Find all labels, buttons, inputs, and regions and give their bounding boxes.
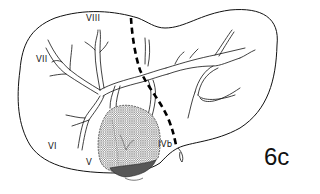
segment-label-viii: VIII — [86, 13, 100, 23]
segment-label-vii: VII — [36, 54, 47, 64]
gallbladder-mass — [98, 105, 160, 180]
segment-label-v: V — [86, 157, 92, 167]
segment-label-ivb: IVb — [158, 139, 172, 149]
figure-label: 6c — [264, 143, 289, 171]
segment-label-vi: VI — [48, 141, 57, 151]
round-ligament — [178, 148, 183, 162]
